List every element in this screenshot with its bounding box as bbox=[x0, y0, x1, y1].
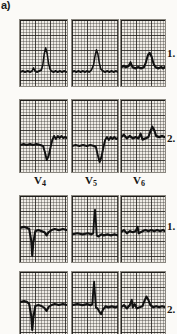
ecg-strip-r3c2 bbox=[72, 196, 118, 262]
ecg-trace-path bbox=[72, 137, 118, 162]
lead-label-v5-text: V bbox=[85, 174, 93, 186]
ecg-strip-r1c2 bbox=[72, 20, 118, 86]
ecg-trace-path bbox=[72, 50, 118, 72]
ecg-trace-path bbox=[121, 127, 165, 140]
ecg-trace-path bbox=[20, 48, 66, 72]
lead-label-v5: V5 bbox=[85, 175, 97, 189]
row-group-number-1: 1. bbox=[167, 48, 175, 59]
ecg-trace-path bbox=[20, 227, 67, 256]
lead-label-v6-text: V bbox=[133, 174, 141, 186]
ecg-trace-svg bbox=[72, 196, 118, 262]
ecg-trace-svg bbox=[121, 100, 165, 172]
lead-label-v5-sub: 5 bbox=[93, 179, 97, 188]
ecg-trace-path bbox=[20, 136, 67, 160]
ecg-trace-svg bbox=[20, 196, 67, 262]
ecg-trace-path bbox=[121, 227, 165, 233]
lead-label-v6: V6 bbox=[133, 175, 145, 189]
ecg-trace-svg bbox=[72, 272, 118, 334]
ecg-trace-path bbox=[20, 301, 67, 330]
ecg-trace-path bbox=[121, 297, 165, 309]
ecg-trace-svg bbox=[121, 272, 165, 334]
lead-label-v6-sub: 6 bbox=[141, 179, 145, 188]
ecg-figure: a) 1. bbox=[0, 0, 177, 334]
ecg-strip-r2c1 bbox=[20, 100, 67, 172]
ecg-strip-r4c2 bbox=[72, 272, 118, 334]
ecg-strip-r4c1 bbox=[20, 272, 67, 334]
ecg-trace-path bbox=[121, 53, 165, 68]
ecg-trace-path bbox=[72, 282, 118, 314]
ecg-trace-path bbox=[72, 210, 118, 237]
ecg-strip-r3c1 bbox=[20, 196, 67, 262]
lead-label-v4-text: V bbox=[34, 174, 42, 186]
ecg-trace-svg bbox=[72, 20, 118, 86]
ecg-trace-svg bbox=[72, 100, 118, 172]
figure-panel-letter: a) bbox=[1, 0, 10, 11]
ecg-strip-r1c3 bbox=[121, 20, 165, 86]
ecg-strip-r1c1 bbox=[20, 20, 67, 86]
ecg-trace-svg bbox=[121, 20, 165, 86]
row-group-number-4: 2. bbox=[167, 304, 175, 315]
ecg-trace-svg bbox=[20, 100, 67, 172]
ecg-trace-svg bbox=[20, 20, 67, 86]
ecg-trace-svg bbox=[20, 272, 67, 334]
ecg-strip-r4c3 bbox=[121, 272, 165, 334]
row-group-number-3: 1. bbox=[167, 221, 175, 232]
lead-label-v4-sub: 4 bbox=[42, 179, 46, 188]
ecg-strip-r3c3 bbox=[121, 196, 165, 262]
lead-label-v4: V4 bbox=[34, 175, 46, 189]
ecg-strip-r2c2 bbox=[72, 100, 118, 172]
ecg-trace-svg bbox=[121, 196, 165, 262]
ecg-strip-r2c3 bbox=[121, 100, 165, 172]
row-group-number-2: 2. bbox=[167, 133, 175, 144]
